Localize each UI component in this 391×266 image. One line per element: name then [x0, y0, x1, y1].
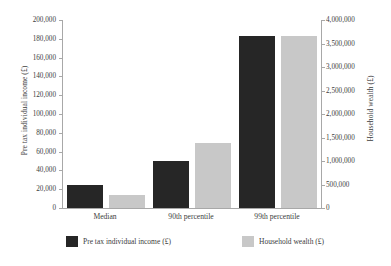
- y-axis-left-tick-label: 160,000: [33, 54, 56, 62]
- y-axis-left-tick-mark: [59, 208, 62, 209]
- y-axis-right-tick-labels: 4,000,0003,500,0003,000,0002,500,0002,00…: [322, 0, 366, 266]
- bar-income: [239, 36, 275, 208]
- y-axis-left-tick-label: 0: [52, 204, 56, 212]
- y-axis-left-tick-label: 200,000: [33, 16, 56, 24]
- y-axis-left-tick-label: 80,000: [36, 129, 56, 137]
- y-axis-right-tick-mark: [322, 67, 325, 68]
- y-axis-right-tick-mark: [322, 138, 325, 139]
- y-axis-right-tick-label: 4,000,000: [326, 16, 355, 24]
- y-axis-left-tick-label: 20,000: [36, 185, 56, 193]
- y-axis-right-tick-mark: [322, 44, 325, 45]
- y-axis-right-tick-mark: [322, 114, 325, 115]
- bar-income: [67, 185, 103, 208]
- bar-income: [153, 161, 189, 208]
- y-axis-right-tick-label: 3,000,000: [326, 63, 355, 71]
- bar-wealth: [281, 36, 317, 208]
- y-axis-left-tick-mark: [59, 95, 62, 96]
- y-axis-left-tick-mark: [59, 133, 62, 134]
- legend-label: Household wealth (£): [259, 237, 324, 246]
- y-axis-left-tick-mark: [59, 114, 62, 115]
- bar-chart-figure: Pre tax individual income (£) Household …: [0, 0, 391, 266]
- x-axis-category-label: 99th percentile: [227, 212, 327, 221]
- y-axis-right-title: Household wealth (£): [366, 39, 375, 179]
- y-axis-left-tick-mark: [59, 39, 62, 40]
- y-axis-left-tick-mark: [59, 76, 62, 77]
- y-axis-right-tick-label: 1,000,000: [326, 157, 355, 165]
- y-axis-left-tick-mark: [59, 58, 62, 59]
- x-axis-category-label: 90th percentile: [141, 212, 241, 221]
- y-axis-left-tick-mark: [59, 20, 62, 21]
- bar-wealth: [195, 143, 231, 208]
- y-axis-right-tick-label: 1,500,000: [326, 134, 355, 142]
- bar-wealth: [109, 195, 145, 208]
- y-axis-left-tick-label: 120,000: [33, 91, 56, 99]
- bar-group: [153, 20, 231, 208]
- y-axis-left-tick-mark: [59, 152, 62, 153]
- legend-entry[interactable]: Pre tax individual income (£): [66, 236, 171, 247]
- y-axis-left-tick-mark: [59, 170, 62, 171]
- y-axis-left-tick-label: 60,000: [36, 148, 56, 156]
- y-axis-right-tick-label: 500,000: [326, 181, 349, 189]
- y-axis-left-tick-labels: 200,000180,000160,000140,000120,000100,0…: [15, 0, 59, 266]
- legend-swatch-icon: [66, 236, 78, 247]
- y-axis-left-tick-label: 100,000: [33, 110, 56, 118]
- y-axis-right-tick-label: 0: [326, 204, 330, 212]
- y-axis-right-tick-label: 2,500,000: [326, 87, 355, 95]
- plot-area: [62, 20, 322, 209]
- y-axis-right-tick-mark: [322, 91, 325, 92]
- y-axis-left-tick-mark: [59, 189, 62, 190]
- y-axis-right-tick-mark: [322, 20, 325, 21]
- y-axis-right-tick-mark: [322, 208, 325, 209]
- y-axis-left-tick-label: 40,000: [36, 166, 56, 174]
- legend-entry[interactable]: Household wealth (£): [242, 236, 324, 247]
- chart-legend: Pre tax individual income (£)Household w…: [62, 232, 328, 250]
- y-axis-right-tick-label: 3,500,000: [326, 40, 355, 48]
- y-axis-right-tick-label: 2,000,000: [326, 110, 355, 118]
- y-axis-right-tick-mark: [322, 161, 325, 162]
- x-axis-category-label: Median: [55, 212, 155, 221]
- y-axis-left-tick-label: 140,000: [33, 72, 56, 80]
- bar-group: [67, 20, 145, 208]
- legend-label: Pre tax individual income (£): [83, 237, 171, 246]
- y-axis-right-tick-mark: [322, 185, 325, 186]
- legend-swatch-icon: [242, 236, 254, 247]
- bar-group: [239, 20, 317, 208]
- y-axis-left-tick-label: 180,000: [33, 35, 56, 43]
